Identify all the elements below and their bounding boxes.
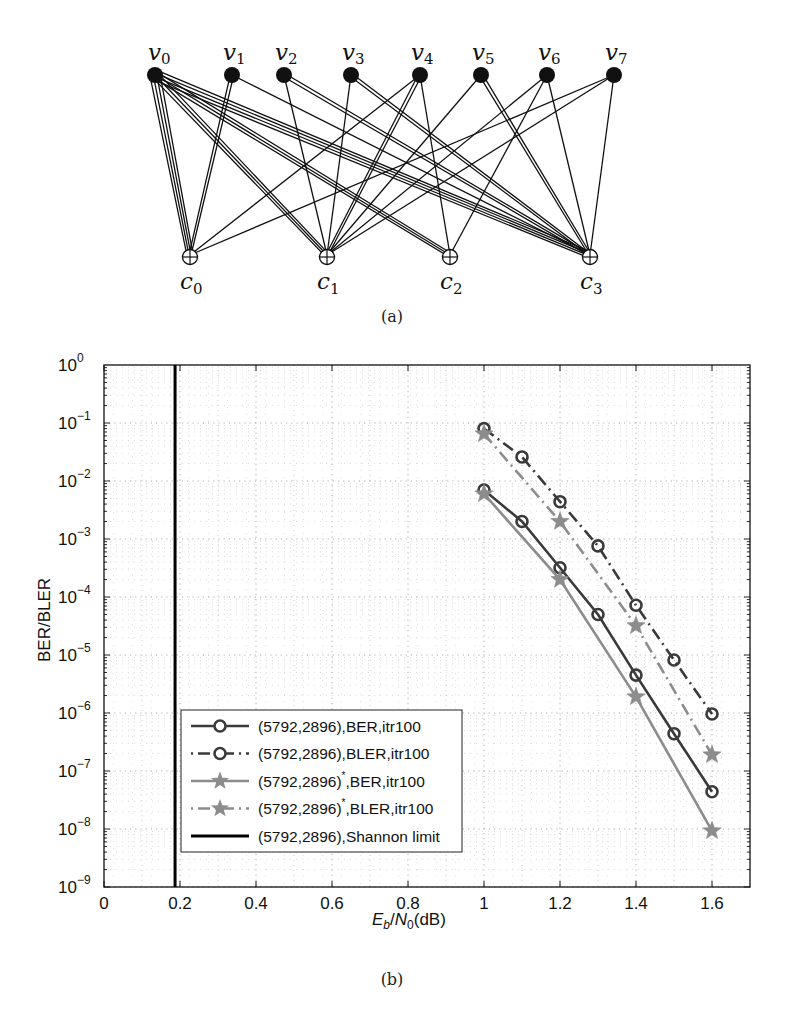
- variable-node-label: v1: [223, 39, 246, 68]
- chart-legend: (5792,2896),BER,itr100(5792,2896),BLER,i…: [181, 710, 462, 852]
- check-node-label: c0: [180, 268, 202, 298]
- legend-circle-marker-icon: [215, 748, 226, 759]
- check-node-label: c2: [440, 268, 462, 298]
- tanner-edge: [157, 75, 191, 255]
- variable-node-dot: [539, 67, 555, 83]
- tanner-edge: [153, 75, 189, 255]
- panel-a-caption: (a): [381, 307, 403, 326]
- y-axis-label: BER/BLER: [35, 578, 54, 662]
- x-tick-label: 0: [99, 894, 108, 913]
- variable-node-label: v2: [275, 39, 298, 68]
- y-tick-label: 10−9: [58, 873, 91, 897]
- x-axis-label: Eb/N0(dB): [372, 910, 446, 932]
- check-nodes: c0c1c2c3: [180, 250, 602, 299]
- variable-node-label: v5: [472, 39, 495, 68]
- check-node-c1: c1: [317, 250, 339, 299]
- figure: v0v1v2v3v4v5v6v7 c0c1c2c3 (a) 10010−110−…: [0, 0, 785, 1030]
- variable-node-v7: v7: [605, 39, 628, 83]
- y-tick-label: 10−3: [58, 525, 91, 549]
- legend-circle-marker-icon: [215, 721, 226, 732]
- variable-node-v6: v6: [538, 39, 561, 83]
- tanner-edge: [420, 75, 450, 255]
- x-tick-label: 0.4: [244, 894, 268, 913]
- tanner-edge: [191, 75, 234, 255]
- x-tick-label: 1.4: [624, 894, 648, 913]
- variable-node-v5: v5: [472, 39, 495, 83]
- variable-node-label: v7: [605, 39, 628, 68]
- y-tick-label: 10−4: [58, 583, 91, 607]
- variable-node-dot: [147, 67, 163, 83]
- x-tick-label: 1: [479, 894, 488, 913]
- y-tick-label: 10−2: [58, 467, 91, 491]
- legend-label: (5792,2896),Shannon limit: [258, 828, 441, 845]
- check-node-label: c3: [580, 268, 602, 298]
- y-tick-label: 10−5: [58, 641, 91, 665]
- check-node-label: c1: [317, 268, 339, 298]
- variable-node-v4: v4: [411, 39, 434, 83]
- x-label-E: E: [372, 910, 384, 929]
- variable-nodes: v0v1v2v3v4v5v6v7: [147, 39, 628, 83]
- x-tick-labels: 00.20.40.60.811.21.41.6: [99, 894, 724, 913]
- tanner-graph: v0v1v2v3v4v5v6v7 c0c1c2c3: [147, 39, 628, 298]
- tanner-edge: [547, 75, 590, 255]
- x-tick-label: 1.6: [700, 894, 724, 913]
- variable-node-dot: [606, 67, 622, 83]
- variable-node-dot: [473, 67, 489, 83]
- x-label-N: N: [395, 910, 408, 929]
- variable-node-v1: v1: [223, 39, 246, 83]
- y-tick-labels: 10010−110−210−310−410−510−610−710−810−9: [58, 351, 91, 897]
- check-node-c3: c3: [580, 250, 602, 299]
- legend-label: (5792,2896),BLER,itr100: [258, 745, 430, 762]
- check-node-c0: c0: [180, 250, 202, 299]
- legend-label: (5792,2896)*,BER,itr100: [258, 770, 425, 790]
- panel-b-caption: (b): [381, 970, 404, 989]
- variable-node-dot: [343, 67, 359, 83]
- y-tick-label: 10−7: [58, 757, 91, 781]
- x-tick-label: 0.2: [168, 894, 192, 913]
- y-tick-label: 10−1: [58, 409, 91, 433]
- check-node-c2: c2: [440, 250, 462, 299]
- tanner-edges: [150, 70, 614, 258]
- variable-node-v0: v0: [147, 39, 171, 83]
- y-tick-label: 10−8: [58, 815, 91, 839]
- variable-node-v2: v2: [275, 39, 298, 83]
- x-tick-label: 1.2: [548, 894, 572, 913]
- tanner-edge: [160, 74, 193, 254]
- legend-label: (5792,2896),BER,itr100: [258, 718, 421, 735]
- variable-node-label: v0: [148, 39, 171, 68]
- y-tick-label: 10−6: [58, 699, 91, 723]
- variable-node-label: v4: [411, 39, 434, 68]
- variable-node-dot: [276, 67, 292, 83]
- variable-node-dot: [412, 67, 428, 83]
- ber-bler-chart: 10010−110−210−310−410−510−610−710−810−9 …: [35, 351, 750, 932]
- tanner-edge: [155, 75, 450, 255]
- variable-node-label: v6: [538, 39, 561, 68]
- y-tick-label: 100: [58, 351, 84, 375]
- variable-node-label: v3: [342, 39, 365, 68]
- legend-label: (5792,2896)*,BLER,itr100: [258, 797, 434, 817]
- variable-node-v3: v3: [342, 39, 365, 83]
- x-tick-label: 0.6: [320, 894, 344, 913]
- variable-node-dot: [224, 67, 240, 83]
- tanner-edge: [153, 80, 589, 258]
- tanner-edge: [590, 75, 614, 255]
- x-label-unit: (dB): [414, 910, 446, 929]
